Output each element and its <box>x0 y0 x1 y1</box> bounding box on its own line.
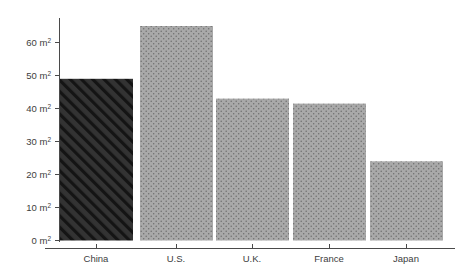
bar-japan[interactable] <box>370 161 443 240</box>
x-tick-label-japan: Japan <box>393 253 419 264</box>
bar-china[interactable] <box>60 79 133 241</box>
x-tick-label-china: China <box>84 253 110 264</box>
bar-uk[interactable] <box>216 99 289 241</box>
chart-canvas: 60 m2 50 m2 40 m2 30 m2 20 m2 10 m2 0 m2… <box>0 0 468 278</box>
bar-us[interactable] <box>140 26 213 241</box>
x-tick-label-france: France <box>314 253 344 264</box>
bar-chart: 60 m2 50 m2 40 m2 30 m2 20 m2 10 m2 0 m2… <box>0 0 468 278</box>
x-tick-label-uk: U.K. <box>243 253 261 264</box>
x-tick-label-us: U.S. <box>167 253 185 264</box>
bar-france[interactable] <box>293 104 366 241</box>
